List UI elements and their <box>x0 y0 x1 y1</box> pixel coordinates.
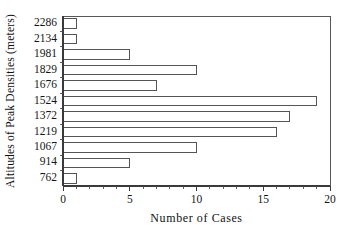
bar-2134 <box>63 34 76 44</box>
y-tick-label-1219: 1219 <box>34 125 57 137</box>
bar-1067 <box>63 143 197 153</box>
y-tick-label-1676: 1676 <box>34 78 57 90</box>
bar-2286 <box>63 19 76 29</box>
chart-canvas: 2286213419811829167615241372121910679147… <box>0 0 347 241</box>
bar-762 <box>63 173 76 183</box>
bar-1676 <box>63 81 156 91</box>
x-tick-label-15: 15 <box>258 193 270 205</box>
y-tick-label-2286: 2286 <box>34 16 57 28</box>
bar-1219 <box>63 127 277 137</box>
y-tick-label-914: 914 <box>40 155 58 167</box>
bar-1829 <box>63 65 197 75</box>
x-axis-title: Number of Cases <box>150 211 242 225</box>
bar-1372 <box>63 112 290 122</box>
x-tick-label-10: 10 <box>191 193 203 205</box>
bar-1524 <box>63 96 317 106</box>
y-tick-label-1524: 1524 <box>34 94 57 106</box>
y-tick-label-1372: 1372 <box>34 109 57 121</box>
y-tick-label-1981: 1981 <box>34 47 57 59</box>
y-tick-label-1829: 1829 <box>34 63 57 75</box>
x-tick-label-5: 5 <box>127 193 133 205</box>
y-tick-label-2134: 2134 <box>34 32 57 44</box>
y-tick-label-1067: 1067 <box>34 140 57 152</box>
x-tick-label-20: 20 <box>324 193 336 205</box>
bar-1981 <box>63 50 130 60</box>
y-axis-title: Altitudes of Peak Densities (meters) <box>4 14 17 188</box>
bar-914 <box>63 158 130 168</box>
bar-chart-figure: 2286213419811829167615241372121910679147… <box>0 0 347 241</box>
x-tick-label-0: 0 <box>60 193 66 205</box>
y-tick-label-762: 762 <box>40 171 58 183</box>
